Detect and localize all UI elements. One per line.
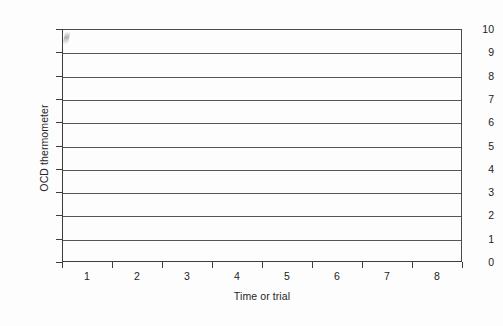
y-tick-label: 0: [457, 256, 503, 268]
gridline: [63, 77, 461, 78]
gridline: [63, 53, 461, 54]
x-tick-label: 6: [317, 270, 357, 282]
x-tick-label: 4: [217, 270, 257, 282]
gridline: [63, 123, 461, 124]
x-tick-label: 7: [367, 270, 407, 282]
plot-area: [62, 29, 462, 262]
x-tick-mark: [162, 262, 163, 268]
x-tick-label: 3: [167, 270, 207, 282]
gridline: [63, 193, 461, 194]
y-tick-label: 1: [457, 233, 503, 245]
x-tick-mark: [262, 262, 263, 268]
x-tick-label: 8: [417, 270, 457, 282]
y-tick-label: 4: [457, 163, 503, 175]
y-tick-label: 3: [457, 186, 503, 198]
chart-screenshot: OCD thermometer 012345678910 12345678 Ti…: [0, 0, 503, 326]
y-axis-title: OCD thermometer: [37, 28, 51, 268]
y-tick-label: 7: [457, 93, 503, 105]
x-tick-mark: [212, 262, 213, 268]
gridline: [63, 240, 461, 241]
y-tick-label: 8: [457, 70, 503, 82]
y-tick-label: 9: [457, 46, 503, 58]
gridline: [63, 216, 461, 217]
x-tick-mark: [112, 262, 113, 268]
y-tick-label: 5: [457, 140, 503, 152]
x-tick-label: 1: [67, 270, 107, 282]
y-tick-label: 10: [457, 23, 503, 35]
y-tick-label: 6: [457, 116, 503, 128]
x-tick-mark: [362, 262, 363, 268]
x-tick-mark: [62, 262, 63, 268]
x-tick-mark: [412, 262, 413, 268]
gridline: [63, 100, 461, 101]
x-tick-mark: [312, 262, 313, 268]
x-tick-mark: [462, 262, 463, 268]
x-tick-label: 2: [117, 270, 157, 282]
gridline: [63, 170, 461, 171]
chart-figure: OCD thermometer 012345678910 12345678 Ti…: [0, 0, 503, 326]
y-tick-label: 2: [457, 209, 503, 221]
x-tick-label: 5: [267, 270, 307, 282]
gridline: [63, 147, 461, 148]
x-axis-title: Time or trial: [62, 290, 462, 302]
